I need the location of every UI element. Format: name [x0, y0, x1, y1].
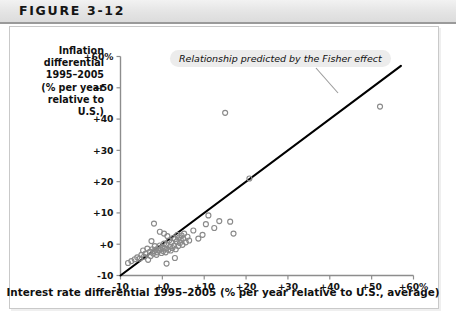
annotation-leader — [316, 68, 338, 93]
x-axis-tick-label: +20 — [236, 281, 256, 292]
y-axis-tick-label: +40 — [93, 113, 113, 124]
scatter-point — [212, 225, 217, 230]
x-axis-tick-label: +0 — [155, 281, 169, 292]
scatter-point — [223, 110, 228, 115]
figure-container: FIGURE 3-12 Inflation differential 1995–… — [0, 0, 456, 317]
scatter-point — [217, 219, 222, 224]
x-axis-tick-label: +60% — [399, 281, 429, 292]
annotation-leader-line — [316, 68, 338, 93]
scatter-point — [164, 261, 169, 266]
x-axis-tick-label: +50 — [361, 281, 381, 292]
scatter-point — [206, 213, 211, 218]
y-axis-tick-label: -10 — [97, 270, 114, 281]
scatter-point — [231, 231, 236, 236]
y-axis-tick-label: +0 — [99, 239, 113, 250]
scatter-point — [203, 222, 208, 227]
x-axis-tick-label: +30 — [278, 281, 298, 292]
scatter-point — [149, 239, 154, 244]
scatter-point — [378, 104, 383, 109]
x-axis-tick-label: +40 — [320, 281, 340, 292]
y-axis-tick-label: +60% — [84, 51, 114, 62]
y-axis-tick-label: +10 — [93, 207, 113, 218]
y-axis-tick-label: +30 — [93, 145, 113, 156]
scatter-plot: -10+0+10+20+30+40+50+60%-10+0+10+20+30+4… — [0, 0, 456, 317]
scatter-point — [196, 236, 201, 241]
scatter-point — [151, 221, 156, 226]
x-axis-tick-label: +10 — [194, 281, 214, 292]
x-axis-tick-label: -10 — [112, 281, 129, 292]
scatter-point — [191, 228, 196, 233]
scatter-point — [172, 255, 177, 260]
y-axis-tick-label: +50 — [93, 82, 113, 93]
y-axis-tick-label: +20 — [93, 176, 113, 187]
scatter-point — [200, 232, 205, 237]
scatter-point — [228, 219, 233, 224]
